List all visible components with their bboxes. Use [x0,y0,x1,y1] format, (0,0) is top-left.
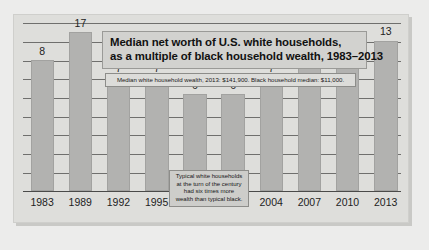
x-tick-label: 2004 [252,196,290,208]
chart-title-line-2: as a multiple of black household wealth,… [110,50,359,64]
annotation-line-3: had six times more [173,188,245,196]
chart-title-box: Median net worth of U.S. white household… [102,31,367,69]
annotation-line-1: Typical white households [173,173,245,181]
annotation-line-4: wealth than typical black. [173,196,245,204]
x-tick-label: 1989 [61,196,99,208]
bar-slot: 8 [31,23,54,191]
bar[interactable] [298,50,321,191]
bar-slot: 13 [374,23,397,191]
annotation-line-2: at the turn of the century [173,181,245,189]
chart-title-line-1: Median net worth of U.S. white household… [110,36,359,50]
bar-value-label: 17 [75,17,87,29]
x-tick-label: 2013 [367,196,405,208]
chart-annotation-box: Typical white households at the turn of … [169,170,249,207]
bar-slot: 17 [69,23,92,191]
bar[interactable] [107,78,130,191]
bar[interactable] [145,78,168,191]
bar[interactable] [69,32,92,191]
bar-value-label: 8 [39,45,45,57]
bar[interactable] [374,41,397,191]
chart-subtitle: Median white household wealth, 2013: $14… [110,76,351,84]
x-tick-label: 1992 [99,196,137,208]
x-tick-label: 1983 [23,196,61,208]
chart-page: 8 17 7 7 6 [0,0,429,250]
x-tick-label: 2010 [328,196,366,208]
bar[interactable] [31,60,54,191]
bar[interactable] [260,78,283,191]
bar-value-label: 13 [380,25,392,37]
chart-subtitle-box: Median white household wealth, 2013: $14… [105,73,356,87]
x-tick-label: 2007 [290,196,328,208]
